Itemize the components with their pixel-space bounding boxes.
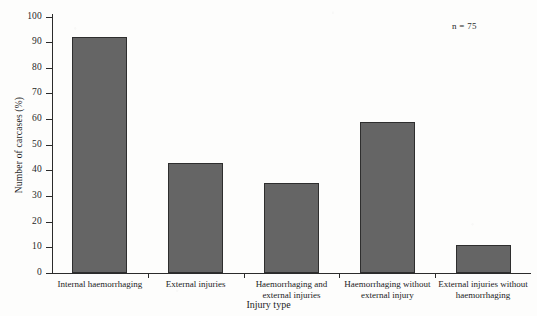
- y-axis-tick-label: 100: [2, 12, 42, 22]
- y-axis-tick: [46, 196, 52, 197]
- x-axis-category-label: Internal haemorrhaging: [49, 279, 151, 290]
- bar: [264, 183, 319, 273]
- x-axis-category-label: External injuries withouthaemorrhaging: [432, 279, 534, 300]
- y-axis-tick: [46, 273, 52, 274]
- y-axis-tick-label: 10: [2, 242, 42, 252]
- y-axis-tick: [46, 222, 52, 223]
- y-axis-tick: [46, 68, 52, 69]
- y-axis-tick: [46, 145, 52, 146]
- x-axis-tick: [339, 273, 340, 278]
- x-axis-tick: [435, 273, 436, 278]
- x-axis-category-label: External injuries: [145, 279, 247, 290]
- x-axis-tick: [148, 273, 149, 278]
- x-axis-tick: [244, 273, 245, 278]
- category-label-line: External injuries without: [432, 279, 534, 290]
- category-label-line: Internal haemorrhaging: [49, 279, 151, 290]
- y-axis-line: [52, 14, 53, 274]
- y-axis-tick: [46, 119, 52, 120]
- bar: [456, 245, 511, 273]
- y-axis-tick: [46, 17, 52, 18]
- x-axis-category-label: Haemorrhaging andexternal injuries: [241, 279, 343, 300]
- bar: [168, 163, 223, 273]
- bar: [72, 37, 127, 273]
- category-label-line: External injuries: [145, 279, 247, 290]
- bar-chart-figure: n = 75 0102030405060708090100 Internal h…: [0, 0, 537, 316]
- y-axis-tick: [46, 42, 52, 43]
- y-axis-tick: [46, 170, 52, 171]
- sample-size-annotation: n = 75: [452, 21, 477, 31]
- x-axis-title: Injury type: [0, 299, 537, 310]
- x-axis-line: [52, 273, 531, 274]
- x-axis-category-label: Haemorrhaging withoutexternal injury: [336, 279, 438, 300]
- y-axis-tick-label: 0: [2, 268, 42, 278]
- y-axis-tick-label: 90: [2, 37, 42, 47]
- category-label-line: Haemorrhaging without: [336, 279, 438, 290]
- category-label-line: Haemorrhaging and: [241, 279, 343, 290]
- y-axis-tick: [46, 93, 52, 94]
- y-axis-tick: [46, 247, 52, 248]
- y-axis-title: Number of carcases (%): [14, 65, 24, 225]
- bar: [360, 122, 415, 273]
